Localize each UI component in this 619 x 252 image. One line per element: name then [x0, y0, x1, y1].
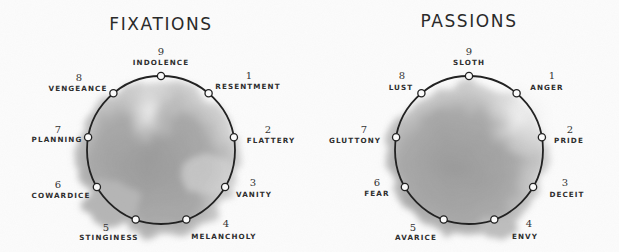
node-marker-6-icon: [401, 183, 408, 190]
point-label-indolence: INDOLENCE: [133, 58, 189, 67]
point-label-envy: ENVY: [512, 232, 538, 241]
node-marker-1-icon: [513, 90, 520, 97]
node-marker-4-icon: [183, 216, 190, 223]
point-label-cowardice: COWARDICE: [32, 191, 91, 200]
point-label-vengeance: VENGEANCE: [49, 84, 108, 93]
point-label-avarice: AVARICE: [395, 233, 437, 242]
point-label-sloth: SLOTH: [453, 58, 485, 67]
node-marker-2-icon: [538, 134, 545, 141]
point-number: 3: [562, 177, 568, 188]
point-label-resentment: RESENTMENT: [215, 82, 280, 91]
diagram-title-fixations: FIXATIONS: [81, 14, 241, 34]
node-marker-8-icon: [110, 90, 117, 97]
enneagram-figure: FIXATIONS9INDOLENCE1RESENTMENT2FLATTERY3…: [0, 0, 619, 252]
point-label-gluttony: GLUTTONY: [329, 136, 381, 145]
point-number: 8: [399, 70, 405, 81]
point-number: 4: [223, 218, 229, 229]
point-label-anger: ANGER: [530, 83, 563, 92]
point-label-fear: FEAR: [364, 189, 389, 198]
node-marker-3-icon: [530, 183, 537, 190]
point-number: 1: [246, 70, 252, 81]
diagram-title-passions: PASSIONS: [389, 11, 549, 31]
node-marker-8-icon: [418, 90, 425, 97]
point-label-vanity: VANITY: [236, 190, 272, 199]
point-number: 1: [549, 70, 555, 81]
node-marker-5-icon: [132, 216, 139, 223]
node-marker-5-icon: [440, 216, 447, 223]
node-marker-9-icon: [157, 72, 164, 79]
node-marker-3-icon: [222, 183, 229, 190]
node-marker-6-icon: [93, 183, 100, 190]
point-number: 9: [158, 46, 164, 57]
point-number: 5: [103, 222, 109, 233]
point-number: 5: [410, 222, 416, 233]
point-number: 6: [55, 179, 61, 190]
point-label-deceit: DECEIT: [549, 190, 584, 199]
point-label-stinginess: STINGINESS: [79, 233, 138, 242]
point-number: 3: [250, 177, 256, 188]
node-marker-4-icon: [491, 216, 498, 223]
point-label-lust: LUST: [389, 83, 414, 92]
node-marker-9-icon: [465, 72, 472, 79]
point-number: 8: [76, 72, 82, 83]
node-marker-7-icon: [85, 134, 92, 141]
node-marker-7-icon: [393, 134, 400, 141]
point-number: 2: [567, 124, 573, 135]
point-number: 7: [361, 124, 367, 135]
enneagram-artwork: [0, 0, 619, 252]
point-number: 4: [526, 218, 532, 229]
node-marker-2-icon: [230, 134, 237, 141]
point-label-planning: PLANNING: [32, 135, 83, 144]
point-label-flattery: FLATTERY: [247, 136, 296, 145]
point-number: 7: [55, 124, 61, 135]
point-label-pride: PRIDE: [554, 136, 584, 145]
point-number: 2: [265, 124, 271, 135]
point-number: 9: [466, 46, 472, 57]
node-marker-1-icon: [205, 90, 212, 97]
point-number: 6: [374, 177, 380, 188]
point-label-melancholy: MELANCHOLY: [191, 232, 256, 241]
